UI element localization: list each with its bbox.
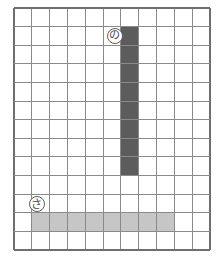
circled-marker-horizontal: さ bbox=[29, 196, 45, 212]
grid-area: の さ bbox=[14, 8, 210, 250]
circled-marker-vertical-glyph: の bbox=[109, 30, 120, 41]
circled-marker-horizontal-glyph: さ bbox=[31, 199, 42, 210]
circled-marker-vertical: の bbox=[107, 28, 123, 44]
grid-diagram-figure: の さ bbox=[0, 0, 224, 259]
grid-lines bbox=[14, 8, 210, 250]
